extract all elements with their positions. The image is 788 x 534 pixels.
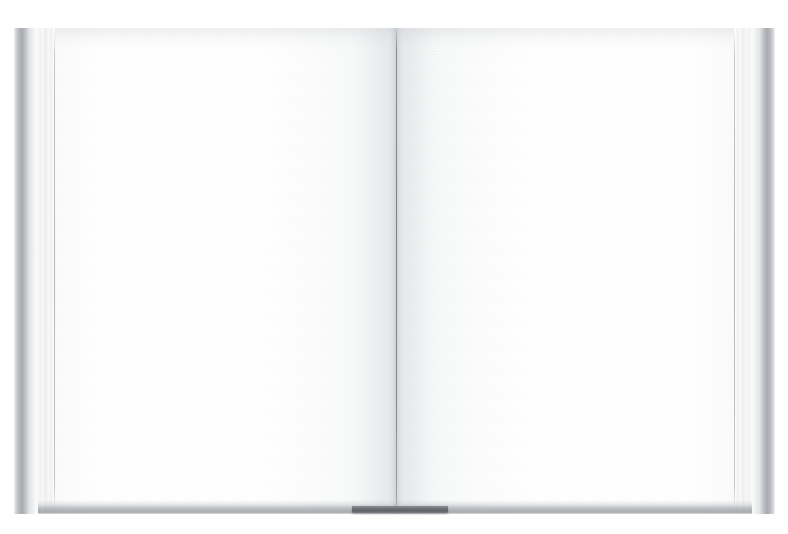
bookmark-strip[interactable]: [352, 506, 448, 513]
right-page-block-edge: [735, 28, 752, 514]
left-page[interactable]: [55, 28, 396, 514]
open-book[interactable]: [14, 28, 775, 514]
right-page-block-crease: [734, 28, 735, 514]
left-cover-spine: [14, 28, 31, 514]
right-page[interactable]: [397, 28, 734, 514]
book-photo-scene: [0, 0, 788, 534]
left-page-block-edge: [37, 28, 54, 514]
right-cover-spine: [758, 28, 775, 514]
right-cover-inner-edge: [752, 28, 758, 514]
